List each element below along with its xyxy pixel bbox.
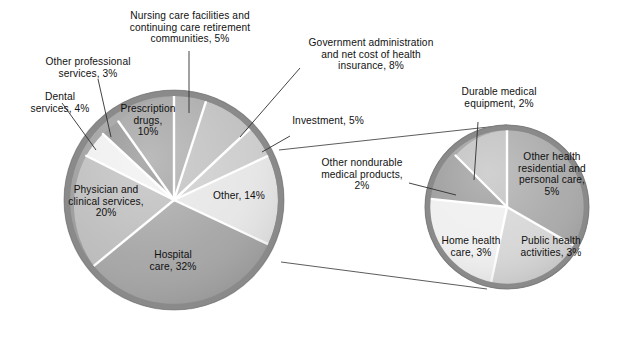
label-other-health-residential-personal-care: Other health residential and personal ca… (504, 151, 600, 197)
label-home-health-care: Home health care, 3% (428, 235, 514, 258)
label-other-nondurable-medical-products: Other nondurable medical products, 2% (302, 157, 422, 192)
label-dental-services: Dental services, 4% (10, 91, 110, 114)
label-hospital-care: Hospital care, 32% (128, 249, 218, 272)
label-government-administration: Government administration and net cost o… (282, 37, 460, 72)
pie-of-pie-chart: Nursing care facilities and continuing c… (0, 0, 623, 339)
label-prescription-drugs: Prescription drugs, 10% (110, 103, 186, 138)
label-physician-clinical-services: Physician and clinical services, 20% (52, 184, 160, 219)
label-other-professional-services: Other professional services, 3% (22, 56, 154, 79)
leader-line-government-administration (240, 68, 300, 137)
label-investment: Investment, 5% (280, 115, 376, 127)
label-durable-medical-equipment: Durable medical equipment, 2% (437, 86, 561, 109)
label-public-health-activities: Public health activities, 3% (506, 235, 596, 258)
label-nursing-care: Nursing care facilities and continuing c… (104, 10, 276, 45)
label-other-slice: Other, 14% (196, 190, 282, 202)
secondary-pie (425, 125, 589, 289)
